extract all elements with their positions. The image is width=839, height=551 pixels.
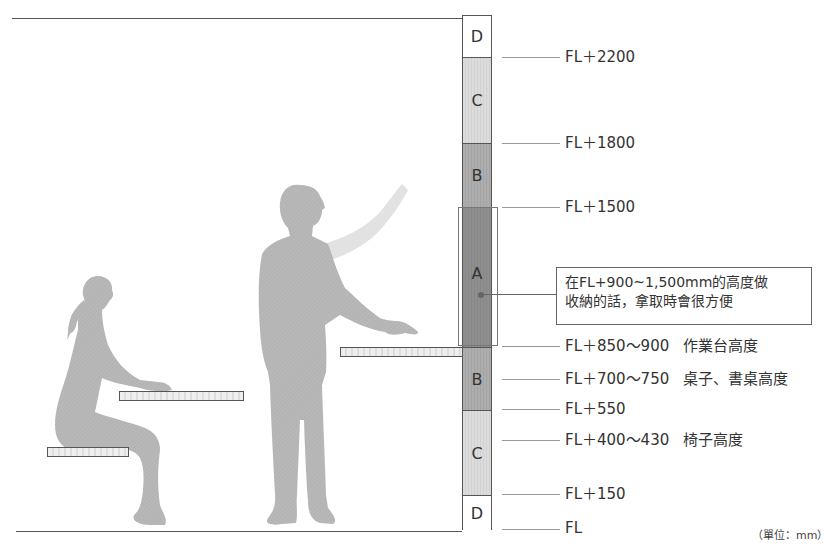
zone-label: D xyxy=(471,504,483,523)
leader-line xyxy=(502,409,560,410)
level-label-fl: FL xyxy=(565,519,582,537)
level-label-400-430: FL＋400～430椅子高度 xyxy=(565,431,743,449)
level-label-1800: FL＋1800 xyxy=(565,134,635,152)
leader-line xyxy=(502,57,560,58)
zone-b-top: B xyxy=(463,143,491,207)
leader-line xyxy=(502,494,560,495)
callout-connector xyxy=(481,294,556,295)
leader-line xyxy=(502,440,560,441)
zone-label: C xyxy=(471,91,482,110)
callout-line-2: 收納的話，拿取時會很方便 xyxy=(565,292,803,311)
leader-line xyxy=(502,143,560,144)
desk-top xyxy=(119,391,244,401)
zone-c-top: C xyxy=(463,57,491,143)
level-label-150: FL＋150 xyxy=(565,485,626,503)
zone-b-bottom: B xyxy=(463,347,491,410)
callout-box: 在FL+900~1,500mm的高度做 收納的話，拿取時會很方便 xyxy=(556,267,812,325)
chair-seat xyxy=(47,447,129,457)
zone-label: B xyxy=(472,370,483,389)
raised-arm-ghost xyxy=(320,184,408,262)
zone-label: D xyxy=(471,27,483,46)
zone-c-bottom: C xyxy=(463,410,491,495)
zone-label: C xyxy=(471,444,482,463)
leader-line xyxy=(502,529,560,530)
zone-d-bottom: D xyxy=(463,495,491,530)
level-label-1500: FL＋1500 xyxy=(565,198,635,216)
zone-a-highlight xyxy=(458,207,498,346)
leader-line xyxy=(502,346,560,347)
work-counter xyxy=(340,347,464,357)
level-label-850-900: FL＋850～900作業台高度 xyxy=(565,337,758,355)
callout-line-1: 在FL+900~1,500mm的高度做 xyxy=(565,273,803,292)
unit-note: （單位：mm） xyxy=(752,526,828,542)
leader-line xyxy=(502,379,560,380)
zone-d-top: D xyxy=(463,15,491,57)
level-note: 作業台高度 xyxy=(683,337,758,355)
zone-label: B xyxy=(472,166,483,185)
leader-line xyxy=(502,207,560,208)
level-label-2200: FL＋2200 xyxy=(565,48,635,66)
level-label-700-750: FL＋700～750桌子、書桌高度 xyxy=(565,370,788,388)
level-label-550: FL＋550 xyxy=(565,400,626,418)
callout-anchor-dot xyxy=(478,292,484,298)
level-note: 桌子、書桌高度 xyxy=(683,370,788,388)
level-note: 椅子高度 xyxy=(683,431,743,449)
